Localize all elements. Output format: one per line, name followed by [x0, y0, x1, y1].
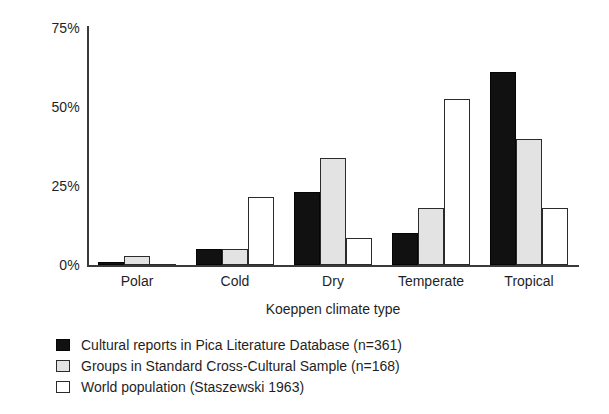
y-tick-label-50: 50% [20, 100, 80, 114]
bar-dry-series-1 [294, 192, 320, 265]
legend-swatch-icon-1 [56, 339, 70, 351]
y-tick-label-75: 75% [20, 21, 80, 35]
bar-temperate-series-3 [444, 99, 470, 265]
bar-tropical-series-2 [516, 139, 542, 265]
bar-chart-figure: 75%50%25%0% PolarColdDryTemperateTropica… [0, 0, 609, 414]
plot-area [88, 28, 578, 265]
bar-polar-series-3 [150, 264, 176, 265]
bar-dry-series-2 [320, 158, 346, 265]
x-axis-tick-labels: PolarColdDryTemperateTropical [88, 272, 578, 294]
bar-temperate-series-2 [418, 208, 444, 265]
legend-label-3: World population (Staszewski 1963) [81, 379, 304, 395]
legend-label-2: Groups in Standard Cross-Cultural Sample… [81, 358, 400, 374]
y-tick-label-25: 25% [20, 179, 80, 193]
legend-swatch-icon-2 [56, 360, 70, 372]
legend-swatch-icon-3 [56, 381, 70, 393]
legend-item-2: Groups in Standard Cross-Cultural Sample… [56, 355, 596, 376]
legend-label-1: Cultural reports in Pica Literature Data… [81, 337, 402, 353]
bar-dry-series-3 [346, 238, 372, 265]
bar-group-polar [88, 28, 186, 265]
x-tick-label-cold: Cold [221, 272, 250, 290]
x-tick-label-temperate: Temperate [398, 272, 464, 290]
x-axis-title: Koeppen climate type [88, 300, 578, 318]
bar-cold-series-2 [222, 249, 248, 265]
bar-cold-series-3 [248, 197, 274, 265]
chart-legend: Cultural reports in Pica Literature Data… [56, 334, 596, 397]
x-axis-line [87, 265, 579, 267]
bar-polar-series-1 [98, 262, 124, 265]
bar-group-tropical [480, 28, 578, 265]
legend-item-3: World population (Staszewski 1963) [56, 376, 596, 397]
legend-item-1: Cultural reports in Pica Literature Data… [56, 334, 596, 355]
bar-group-cold [186, 28, 284, 265]
bar-tropical-series-3 [542, 208, 568, 265]
bar-temperate-series-1 [392, 233, 418, 265]
bar-polar-series-2 [124, 256, 150, 265]
x-tick-label-dry: Dry [322, 272, 344, 290]
bar-group-dry [284, 28, 382, 265]
x-tick-label-tropical: Tropical [504, 272, 553, 290]
bar-tropical-series-1 [490, 72, 516, 265]
bar-cold-series-1 [196, 249, 222, 265]
x-tick-label-polar: Polar [121, 272, 154, 290]
y-axis-tick-labels: 75%50%25%0% [14, 0, 80, 300]
y-tick-label-0: 0% [20, 258, 80, 272]
bar-group-temperate [382, 28, 480, 265]
